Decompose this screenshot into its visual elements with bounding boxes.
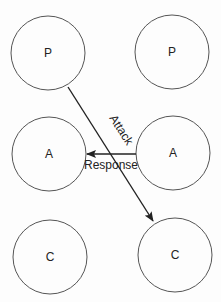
diagram-svg: P P A A C C Attack Response [0, 0, 221, 302]
edge-response: Response [84, 154, 138, 172]
node-p-left: P [11, 16, 85, 90]
node-c-right: C [138, 218, 212, 292]
node-label: C [171, 248, 180, 262]
node-label: A [45, 147, 53, 161]
node-label: A [169, 146, 177, 160]
node-label: C [46, 250, 55, 264]
response-label: Response [84, 158, 138, 172]
node-a-right: A [136, 116, 210, 190]
node-p-right: P [135, 15, 209, 89]
node-c-left: C [13, 220, 87, 294]
attack-label: Attack [107, 112, 137, 149]
diagram-canvas: P P A A C C Attack Response [0, 0, 221, 302]
node-label: P [44, 46, 52, 60]
node-a-left: A [12, 117, 86, 191]
node-label: P [168, 45, 176, 59]
